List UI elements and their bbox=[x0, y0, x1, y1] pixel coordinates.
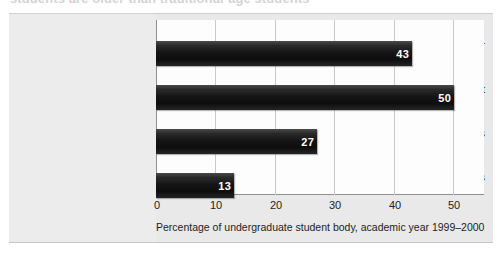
figure-title-text: students are older than traditional-age … bbox=[10, 0, 310, 6]
bar-supporting-dependents: 27 bbox=[156, 129, 317, 154]
chart-frame: Age 24 or older Financially independent … bbox=[9, 13, 493, 243]
xtick-label-10: 10 bbox=[210, 200, 222, 211]
xtick-label-0: 0 bbox=[154, 200, 160, 211]
category-label-gutter bbox=[9, 14, 156, 242]
bar-value-age-24-or-older: 43 bbox=[396, 48, 409, 59]
xtick-label-50: 50 bbox=[448, 200, 460, 211]
bar-value-financially-independent: 50 bbox=[438, 92, 451, 103]
bar-value-supporting-dependents: 27 bbox=[301, 136, 314, 147]
bar-row-financially-independent: 50 bbox=[156, 78, 484, 122]
plot-area: 43 50 27 13 bbox=[156, 20, 484, 195]
xtick-label-40: 40 bbox=[389, 200, 401, 211]
xtick-label-30: 30 bbox=[329, 200, 341, 211]
bar-row-age-24-or-older: 43 bbox=[156, 34, 484, 78]
bar-financially-independent: 50 bbox=[156, 85, 454, 110]
figure-title-cropped: students are older than traditional-age … bbox=[10, 0, 340, 6]
bar-age-24-or-older: 43 bbox=[156, 41, 412, 66]
xtick-label-20: 20 bbox=[270, 200, 282, 211]
bar-row-single-parents: 13 bbox=[156, 166, 484, 210]
bar-chart-figure: students are older than traditional-age … bbox=[0, 0, 504, 262]
bar-single-parents: 13 bbox=[156, 173, 234, 198]
x-axis-caption: Percentage of undergraduate student body… bbox=[156, 221, 484, 233]
bar-value-single-parents: 13 bbox=[218, 180, 231, 191]
bar-row-supporting-dependents: 27 bbox=[156, 122, 484, 166]
